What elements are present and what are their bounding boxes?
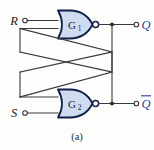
output-terminal-qbar[interactable]: [134, 101, 139, 106]
output-label-q: Q: [141, 18, 150, 32]
nor-gate-g1-bubble: [93, 22, 99, 28]
output-terminal-q[interactable]: [134, 22, 139, 27]
gate-label-g2-subscript: 2: [78, 103, 82, 112]
figure-canvas: G 1 Q G 2 Q: [0, 0, 154, 150]
input-terminal-r[interactable]: [23, 18, 28, 23]
nor-gate-g2-bubble: [93, 101, 99, 107]
input-label-s: S: [11, 106, 18, 120]
gate-label-g1-subscript: 1: [78, 24, 82, 33]
logic-circuit-diagram: G 1 Q G 2 Q: [0, 0, 154, 150]
figure-caption: (a): [71, 131, 83, 143]
input-terminal-s[interactable]: [23, 111, 28, 116]
gate-label-g1: G: [68, 19, 76, 31]
gate-label-g2: G: [68, 98, 76, 110]
input-label-r: R: [9, 14, 18, 28]
output-label-qbar: Q: [141, 97, 150, 111]
